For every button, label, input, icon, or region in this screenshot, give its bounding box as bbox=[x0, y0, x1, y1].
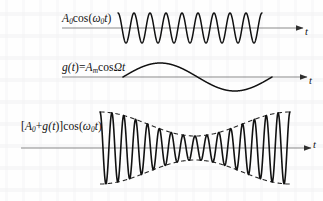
am-g-symbol: g( bbox=[42, 120, 52, 132]
carrier-omega-symbol: ω bbox=[92, 12, 100, 24]
modulator-g-symbol: g( bbox=[62, 61, 72, 73]
am-cos-text: cos( bbox=[63, 120, 83, 132]
am-equation-label: [A0+g(t)]cos(ω0t) bbox=[21, 121, 102, 133]
waveform-canvas bbox=[0, 0, 323, 201]
modulator-cos-text: cos bbox=[98, 61, 114, 73]
am-modulation-figure: A0cos(ω0t) g(t)=AmcosΩt [A0+g(t)]cos(ω0t… bbox=[0, 0, 323, 201]
am-amplitude-symbol: A bbox=[25, 120, 32, 132]
carrier-close-paren: ) bbox=[108, 12, 112, 24]
envelope-upper-dashed bbox=[100, 112, 290, 136]
modulator-amplitude-symbol: A bbox=[86, 61, 93, 73]
carrier-equation-label: A0cos(ω0t) bbox=[62, 13, 112, 25]
modulator-equation-label: g(t)=AmcosΩt bbox=[62, 62, 125, 74]
modulator-time-variable-2: t bbox=[122, 61, 125, 73]
am-close-paren: ) bbox=[98, 120, 102, 132]
carrier-cos-text: cos( bbox=[73, 12, 93, 24]
carrier-axis-label: t bbox=[305, 27, 308, 38]
modulator-equals-sign: )= bbox=[75, 61, 86, 73]
modulator-omega-symbol: Ω bbox=[114, 61, 122, 73]
am-omega-symbol: ω bbox=[83, 120, 91, 132]
am-axis-label: t bbox=[313, 140, 316, 151]
modulator-axis-label: t bbox=[309, 76, 312, 87]
